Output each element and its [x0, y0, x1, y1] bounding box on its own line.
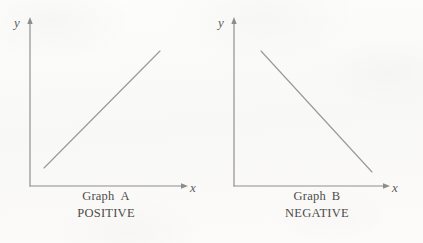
graph-panel-a: y x GraphA POSITIVE	[0, 0, 212, 243]
graph-a-trend-line	[44, 51, 160, 168]
graph-a-y-axis-label: y	[14, 16, 20, 29]
graph-b-caption-word: Graph	[294, 189, 326, 203]
graph-a-caption-word: Graph	[82, 189, 114, 203]
correlation-figure: y x GraphA POSITIVE y x GraphB NEGATIVE	[0, 0, 423, 243]
graph-a-caption-title: GraphA	[0, 189, 212, 203]
graph-b-y-axis-arrow-icon	[231, 17, 236, 24]
graph-panel-b: y x GraphB NEGATIVE	[211, 0, 423, 243]
graph-a-caption: GraphA POSITIVE	[0, 189, 212, 221]
graph-b-caption-letter: B	[332, 189, 341, 203]
graph-b-y-axis-label: y	[218, 16, 224, 29]
graph-a-caption-subtitle: POSITIVE	[0, 206, 212, 220]
graph-a-y-axis-arrow-icon	[27, 17, 32, 24]
graph-b-caption: GraphB NEGATIVE	[211, 189, 423, 221]
graph-b-trend-line	[261, 51, 372, 172]
graph-a-caption-letter: A	[121, 189, 130, 203]
graph-b-caption-subtitle: NEGATIVE	[211, 206, 423, 220]
graph-b-x-axis-arrow-icon	[383, 183, 390, 188]
graph-a-x-axis-arrow-icon	[181, 183, 188, 188]
graph-b-caption-title: GraphB	[211, 189, 423, 203]
